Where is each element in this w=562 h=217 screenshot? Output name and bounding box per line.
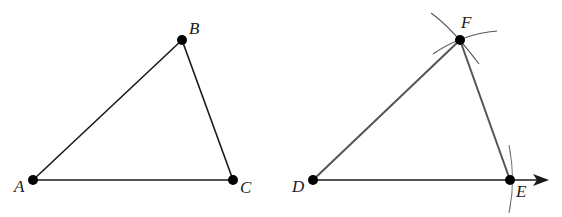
label-f: F (460, 13, 472, 32)
triangle-def: D F E (291, 13, 549, 213)
point-e (505, 175, 515, 185)
label-b: B (189, 19, 200, 38)
point-b (177, 35, 187, 45)
point-a (28, 175, 38, 185)
label-e: E (515, 182, 527, 201)
segment-ab (33, 40, 182, 180)
point-d (308, 175, 318, 185)
point-f (455, 35, 465, 45)
point-c (228, 175, 238, 185)
arc-from-d-at-f (431, 13, 479, 64)
segment-fe (460, 40, 510, 180)
label-c: C (240, 178, 252, 197)
label-d: D (291, 177, 305, 196)
geometry-figure: A B C D F E (0, 0, 562, 217)
triangle-abc: A B C (13, 19, 252, 197)
label-a: A (13, 177, 25, 196)
arc-from-e-at-f (433, 31, 497, 54)
segment-df (313, 40, 460, 180)
segment-bc (182, 40, 233, 180)
diagram-canvas: A B C D F E (0, 0, 562, 217)
